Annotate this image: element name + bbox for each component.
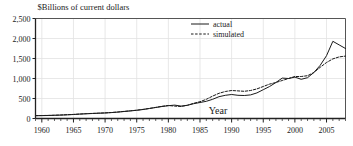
- y-tick-label: 2,500: [13, 15, 31, 24]
- y-tick-label: 1,000: [13, 75, 31, 84]
- y-tick-label: 1,500: [13, 55, 31, 64]
- x-tick-label: 1995: [255, 126, 271, 135]
- plot-area: [36, 19, 346, 119]
- x-tick-label: 2000: [287, 126, 303, 135]
- x-tick-label: 1985: [192, 126, 208, 135]
- x-tick-label: 1965: [65, 126, 81, 135]
- y-tick-label: 500: [19, 95, 31, 104]
- x-axis-title: Year: [209, 105, 228, 116]
- legend-label-actual: actual: [213, 20, 233, 29]
- x-tick-label: 1970: [97, 126, 113, 135]
- line-chart: 05001,0001,5002,0002,5001960196519701975…: [0, 0, 353, 146]
- x-tick-label: 1980: [160, 126, 176, 135]
- chart-figure: 05001,0001,5002,0002,5001960196519701975…: [0, 0, 353, 146]
- x-tick-label: 1975: [129, 126, 145, 135]
- y-tick-label: 2,000: [13, 35, 31, 44]
- x-tick-label: 1990: [224, 126, 240, 135]
- x-tick-label: 2005: [319, 126, 335, 135]
- y-tick-label: 0: [27, 115, 31, 124]
- legend-label-simulated: simulated: [213, 30, 244, 39]
- y-axis-title: $Billions of current dollars: [38, 2, 130, 12]
- x-tick-label: 1960: [34, 126, 50, 135]
